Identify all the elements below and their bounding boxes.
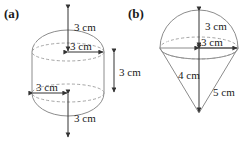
dim-a-bottom-radius-label: 3 cm — [74, 112, 96, 124]
geometry-figures: (a) 3 cm 3 cm 3 cm 3 cm 3 cm — [0, 0, 247, 143]
dim-a-top-radius-label: 3 cm — [74, 21, 96, 33]
figure-a-label: (a) — [4, 6, 19, 21]
dim-b-base-radius-label: 3 cm — [201, 36, 223, 48]
dim-a-cylinder-height-label: 3 cm — [119, 66, 141, 78]
figure-a-group: (a) 3 cm 3 cm 3 cm 3 cm 3 cm — [4, 6, 141, 137]
dim-b-slant-height-label: 5 cm — [213, 86, 235, 98]
dim-b-dome-height-label: 3 cm — [205, 20, 227, 32]
dim-a-bottom-circle-radius-label: 3 cm — [36, 81, 58, 93]
figure-page: (a) 3 cm 3 cm 3 cm 3 cm 3 cm — [0, 0, 247, 143]
figure-b-group: (b) 3 cm 3 cm 4 cm 5 cm — [128, 6, 238, 113]
figure-b-label: (b) — [128, 6, 144, 21]
dim-b-cone-height-label: 4 cm — [178, 69, 200, 81]
dim-a-top-circle-radius-label: 3 cm — [70, 40, 92, 52]
